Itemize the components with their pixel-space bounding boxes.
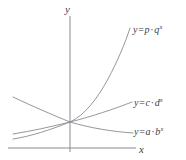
label-cd-lhs: y	[134, 97, 139, 108]
curve-label-c-d: y=c·dx	[134, 98, 163, 108]
label-pq-coefficient: p	[144, 24, 149, 35]
exponential-functions-figure: y x y=p·qx y=c·dx y=a·bx	[0, 0, 186, 160]
curves-group	[13, 28, 133, 139]
curve-a-b-x	[13, 97, 133, 133]
label-ab-lhs: y	[134, 126, 139, 137]
label-pq-exponent: x	[159, 23, 162, 30]
label-cd-exponent: x	[160, 96, 163, 103]
y-axis-label: y	[65, 4, 70, 15]
curve-label-a-b: y=a·bx	[134, 127, 164, 137]
label-pq-lhs: y	[133, 24, 138, 35]
curve-c-d-x	[13, 102, 132, 134]
curve-label-p-q: y=p·qx	[133, 25, 163, 35]
label-ab-exponent: x	[160, 125, 163, 132]
label-ab-coefficient: a	[145, 126, 150, 137]
x-axis-label: x	[139, 144, 144, 155]
